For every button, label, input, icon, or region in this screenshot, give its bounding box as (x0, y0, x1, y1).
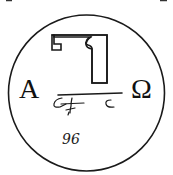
gallows-outline (52, 35, 107, 83)
omega-letter: Ω (131, 73, 152, 104)
alpha-letter: A (19, 73, 40, 104)
script-glyph-right (106, 100, 114, 107)
gallows-figure (54, 35, 107, 83)
underline-stroke (58, 93, 122, 95)
bottom-script-mark: 96 (62, 131, 80, 147)
script-glyph-left (54, 98, 84, 115)
circular-emblem: A Ω 96 (0, 0, 173, 175)
